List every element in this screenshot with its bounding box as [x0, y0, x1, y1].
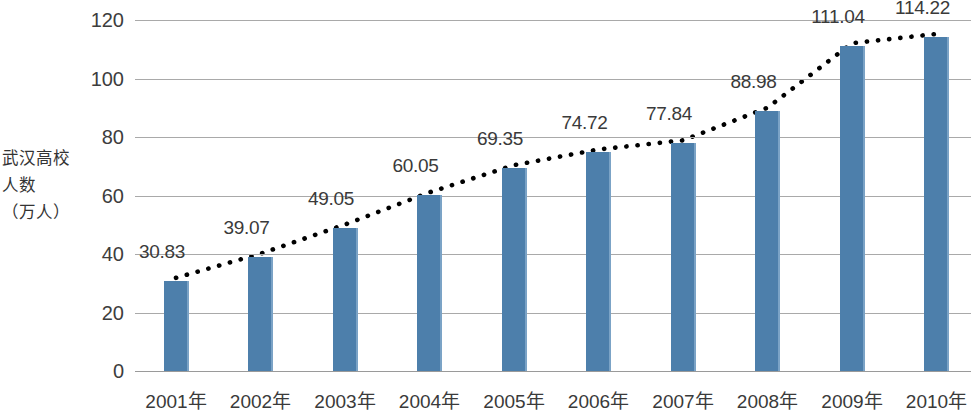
y-axis-tick-label: 20 — [64, 301, 124, 324]
bar-value-label: 39.07 — [223, 217, 269, 239]
bar — [671, 143, 696, 371]
bar — [840, 46, 865, 371]
x-axis-tick-label: 2004年 — [399, 386, 460, 413]
x-axis-tick-label: 2010年 — [906, 386, 967, 413]
bar-value-label: 114.22 — [895, 0, 950, 19]
bar-chart: 武汉高校人数 （万人） 020406080100120 30.8339.0749… — [0, 0, 971, 418]
x-axis-tick-label: 2001年 — [145, 386, 206, 413]
bar — [924, 37, 949, 371]
x-axis-tick-label: 2007年 — [652, 386, 713, 413]
y-axis-tick-labels: 020406080100120 — [62, 0, 124, 418]
y-axis-tick-label: 120 — [64, 9, 124, 32]
bar — [586, 152, 611, 371]
bar-value-label: 74.72 — [561, 112, 607, 134]
x-axis-tick-label: 2009年 — [821, 386, 882, 413]
bar — [502, 168, 527, 371]
x-axis-tick-label: 2006年 — [568, 386, 629, 413]
x-axis-tick-labels: 2001年2002年2003年2004年2005年2006年2007年2008年… — [135, 386, 971, 418]
y-axis-tick-label: 0 — [64, 360, 124, 383]
x-axis-tick-label: 2002年 — [230, 386, 291, 413]
bar-value-label: 77.84 — [646, 103, 692, 125]
y-axis-tick-label: 80 — [64, 126, 124, 149]
bar-value-label: 69.35 — [477, 128, 523, 150]
bar — [333, 228, 358, 371]
y-axis-tick-label: 40 — [64, 243, 124, 266]
bar — [417, 195, 442, 371]
plot-area: 30.8339.0749.0560.0569.3574.7277.8488.98… — [135, 0, 971, 418]
x-axis-tick-label: 2003年 — [314, 386, 375, 413]
bar — [248, 257, 273, 371]
bar — [164, 281, 189, 371]
bar-value-label: 49.05 — [308, 188, 354, 210]
x-axis-tick-label: 2005年 — [483, 386, 544, 413]
bar-value-label: 88.98 — [730, 71, 776, 93]
bar-value-label: 111.04 — [811, 6, 865, 28]
bar — [755, 111, 780, 371]
y-axis-tick-label: 100 — [64, 67, 124, 90]
bar-value-label: 60.05 — [392, 155, 438, 177]
y-axis-tick-label: 60 — [64, 184, 124, 207]
x-axis-tick-label: 2008年 — [737, 386, 798, 413]
bar-value-label: 30.83 — [139, 241, 185, 263]
gridline — [135, 371, 971, 372]
trend-line-path — [176, 34, 937, 278]
